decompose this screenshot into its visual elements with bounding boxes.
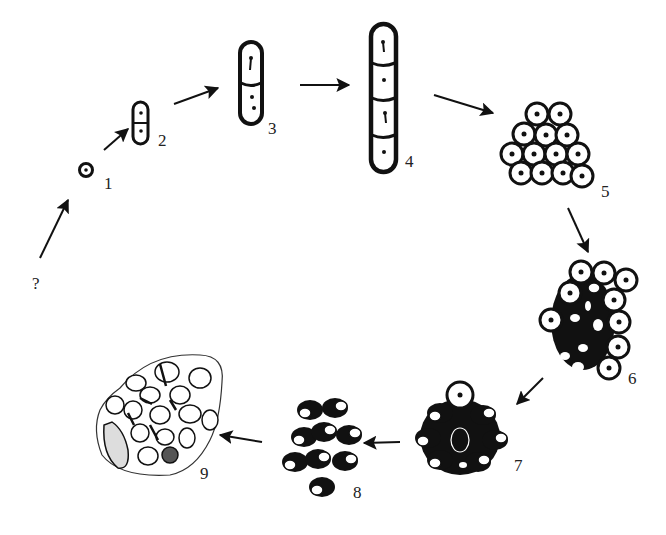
stage-9-enclosed-cells [96, 355, 222, 476]
start-question-label: ? [32, 275, 40, 292]
stage-3-chain [240, 42, 262, 124]
life-cycle-diagram [0, 0, 666, 535]
stage-4-long-chain [371, 24, 396, 172]
stage-5-cluster [501, 103, 593, 187]
stage-label-5: 5 [601, 183, 610, 200]
stage-6-darkening-cluster [540, 261, 637, 379]
stage-label-2: 2 [158, 132, 167, 149]
stage-label-6: 6 [628, 370, 637, 387]
stage-8-dispersed-cells [282, 398, 362, 497]
stage-label-3: 3 [268, 120, 277, 137]
stage-label-8: 8 [353, 484, 362, 501]
stage-label-4: 4 [405, 153, 414, 170]
stage-2-two-cells [133, 102, 148, 144]
stage-1-single-cell [80, 164, 93, 177]
stage-label-1: 1 [104, 175, 113, 192]
stage-label-7: 7 [514, 457, 523, 474]
stage-label-9: 9 [200, 465, 209, 482]
stage-7-dark-cluster [415, 382, 508, 475]
